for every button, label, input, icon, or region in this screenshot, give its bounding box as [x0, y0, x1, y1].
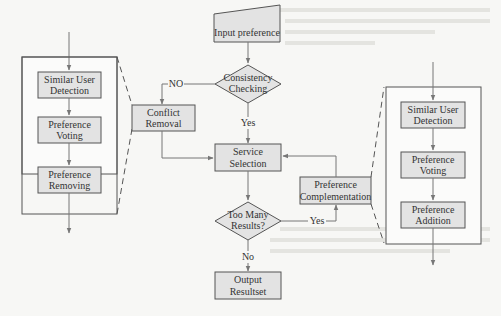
svg-text:Results?: Results? [231, 220, 265, 231]
svg-text:Voting: Voting [420, 165, 447, 176]
service-selection-box: Service Selection [215, 144, 281, 171]
svg-text:Preference: Preference [48, 169, 91, 180]
no-label-2: No [242, 251, 254, 262]
left-similar-user-detection-box: Similar User Detection [38, 72, 101, 98]
svg-text:Removal: Removal [145, 118, 181, 129]
preference-complementation-box: Preference Complementation [300, 177, 372, 204]
svg-text:Selection: Selection [229, 158, 266, 169]
svg-text:Preference: Preference [48, 119, 91, 130]
left-preference-voting-box: Preference Voting [38, 117, 101, 143]
consistency-checking-decision: Consistency Checking [215, 65, 281, 103]
yes-label-2: Yes [310, 215, 325, 226]
right-zoom-line-top [371, 87, 384, 177]
conflict-removal-box: Conflict Removal [132, 105, 195, 131]
yes-label: Yes [241, 117, 256, 128]
svg-text:Preference: Preference [412, 204, 455, 215]
no-label: NO [169, 78, 183, 89]
svg-text:Voting: Voting [56, 130, 83, 141]
right-zoom-line-bottom [371, 204, 384, 243]
right-similar-user-detection-box: Similar User Detection [401, 102, 465, 128]
svg-text:Addition: Addition [415, 215, 451, 226]
too-many-results-decision: Too Many Results? [215, 202, 281, 240]
left-preference-removing-box: Preference Removing [38, 167, 101, 193]
svg-text:Input preference: Input preference [214, 27, 280, 38]
svg-text:Service: Service [233, 146, 264, 157]
svg-text:Conflict: Conflict [147, 107, 180, 118]
left-zoom-line-top [117, 57, 132, 105]
svg-text:Preference: Preference [314, 179, 357, 190]
svg-text:Detection: Detection [414, 115, 453, 126]
left-zoom-line-bottom [117, 129, 132, 214]
svg-text:Similar User: Similar User [408, 104, 459, 115]
svg-text:Consistency: Consistency [224, 72, 273, 83]
svg-text:Checking: Checking [229, 83, 267, 94]
left-detail-panel: Similar User Detection Preference Voting… [22, 32, 117, 193]
right-detail-panel: Similar User Detection Preference Voting… [386, 62, 481, 265]
svg-text:Detection: Detection [50, 85, 89, 96]
right-preference-voting-box: Preference Voting [401, 152, 465, 178]
svg-text:Similar User: Similar User [44, 74, 95, 85]
svg-text:Preference: Preference [412, 154, 455, 165]
svg-text:Too Many: Too Many [227, 209, 268, 220]
flowchart: Similar User Detection Preference Voting… [0, 0, 501, 316]
input-preference-node: Input preference [214, 5, 280, 42]
svg-text:Resultset: Resultset [230, 286, 267, 297]
output-resultset-box: Output Resultset [215, 272, 281, 299]
svg-text:Complementation: Complementation [300, 191, 372, 202]
right-preference-addition-box: Preference Addition [401, 202, 465, 228]
svg-text:Output: Output [234, 274, 262, 285]
svg-text:Removing: Removing [49, 180, 91, 191]
